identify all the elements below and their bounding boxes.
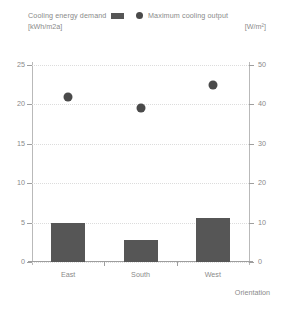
legend-left-unit: [kWh/m2a]: [28, 21, 148, 32]
dot-east: [64, 93, 73, 102]
left-axis-tick: [27, 144, 32, 145]
grid-line: [32, 144, 249, 145]
bar-west: [196, 218, 230, 262]
right-axis-line: [249, 62, 250, 265]
left-axis-tick: [27, 65, 32, 66]
category-label-west: West: [205, 270, 221, 279]
bar-south: [124, 240, 158, 262]
bar-swatch-icon: [111, 13, 124, 19]
category-label-east: East: [61, 270, 75, 279]
legend-entry-cooling-energy-demand: Cooling energy demand [kWh/m2a]: [28, 10, 148, 32]
legend-right-label: Maximum cooling output: [148, 10, 228, 21]
cooling-chart: Cooling energy demand [kWh/m2a] Maximum …: [0, 0, 284, 314]
dot-south: [136, 103, 145, 112]
left-axis-line: [32, 62, 33, 265]
left-axis-tick-label: 20: [17, 100, 25, 108]
right-axis-tick: [249, 183, 254, 184]
right-axis-tick-label: 30: [258, 140, 266, 148]
legend-left-label: Cooling energy demand: [28, 10, 106, 21]
x-axis-tick: [104, 262, 105, 266]
right-axis-tick-label: 20: [258, 179, 266, 187]
left-axis-tick-label: 5: [21, 219, 25, 227]
right-axis-tick-label: 40: [258, 100, 266, 108]
dot-west: [208, 81, 217, 90]
left-axis-tick: [27, 262, 32, 263]
right-axis-tick-label: 50: [258, 61, 266, 69]
plot-area: 051015202501020304050EastSouthWest: [32, 65, 249, 262]
left-axis-tick-label: 25: [17, 61, 25, 69]
right-axis-tick: [249, 223, 254, 224]
left-axis-tick: [27, 183, 32, 184]
grid-line: [32, 183, 249, 184]
x-axis-title: Orientation: [235, 288, 270, 297]
right-axis-tick-label: 10: [258, 219, 266, 227]
x-axis-tick: [177, 262, 178, 266]
left-axis-tick-label: 0: [21, 258, 25, 266]
left-axis-tick-label: 15: [17, 140, 25, 148]
grid-line: [32, 65, 249, 66]
bar-east: [51, 223, 85, 262]
left-axis-tick: [27, 223, 32, 224]
legend-left-row: Cooling energy demand: [28, 10, 148, 21]
left-axis-tick-label: 10: [17, 179, 25, 187]
chart-legend: Cooling energy demand [kWh/m2a] Maximum …: [0, 10, 284, 48]
right-axis-tick-label: 0: [258, 258, 262, 266]
category-label-south: South: [131, 270, 150, 279]
left-axis-tick: [27, 104, 32, 105]
legend-right-row: Maximum cooling output: [136, 10, 266, 21]
dot-swatch-icon: [136, 12, 143, 19]
right-axis-tick: [249, 262, 254, 263]
right-axis-tick: [249, 144, 254, 145]
grid-line: [32, 262, 249, 263]
legend-entry-maximum-cooling-output: Maximum cooling output [W/m²]: [136, 10, 266, 32]
right-axis-tick: [249, 104, 254, 105]
legend-right-unit: [W/m²]: [136, 21, 266, 32]
right-axis-tick: [249, 65, 254, 66]
